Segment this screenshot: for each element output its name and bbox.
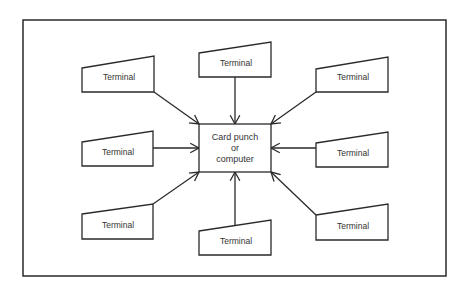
center-label-line-2: or: [231, 143, 239, 154]
arrow-bottom-left: [153, 172, 199, 204]
terminal-label-bottom-right: Terminal: [337, 221, 369, 231]
terminal-label-top-center: Terminal: [220, 58, 252, 68]
terminal-label-middle-left: Terminal: [102, 147, 134, 157]
terminal-label-top-right: Terminal: [337, 72, 369, 82]
arrow-bottom-right: [271, 172, 316, 215]
center-label-line-3: computer: [216, 154, 254, 165]
terminal-label-top-left: Terminal: [103, 72, 135, 82]
terminal-label-bottom-left: Terminal: [102, 220, 134, 230]
arrow-top-left: [154, 92, 199, 124]
terminal-label-bottom-center: Terminal: [220, 236, 252, 246]
center-label-line-1: Card punch: [212, 132, 259, 143]
terminal-label-middle-right: Terminal: [337, 148, 369, 158]
arrow-top-right: [271, 92, 316, 124]
